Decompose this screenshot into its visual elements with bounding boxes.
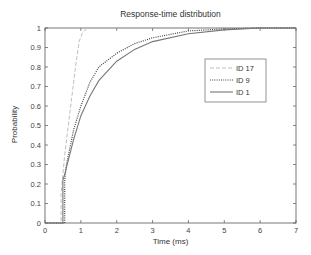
y-tick-label: 0.5 [31,121,41,130]
legend-label: ID 17 [236,64,254,73]
y-tick-label: 0.6 [31,102,41,111]
x-tick-label: 5 [222,226,226,235]
plot-area: 0123456700.10.20.30.40.50.60.70.80.91ID … [0,0,311,255]
y-tick-label: 0.2 [31,180,41,189]
x-tick-label: 6 [258,226,262,235]
chart-container: Response-time distribution Probability T… [0,0,311,255]
x-tick-label: 7 [294,226,298,235]
axes-frame [45,28,296,223]
x-tick-label: 4 [186,226,190,235]
y-tick-label: 0.3 [31,160,41,169]
x-tick-label: 0 [43,226,47,235]
y-tick-label: 0.4 [31,141,41,150]
y-tick-label: 0.7 [31,82,41,91]
legend-label: ID 1 [236,88,250,97]
y-tick-label: 0.1 [31,199,41,208]
y-tick-label: 0 [37,219,41,228]
x-tick-label: 1 [79,226,83,235]
series-line-id-9 [45,28,296,223]
series-line-id-17 [45,28,296,223]
legend-label: ID 9 [236,76,250,85]
y-tick-label: 1 [37,24,41,33]
y-tick-label: 0.9 [31,43,41,52]
x-tick-label: 3 [150,226,154,235]
series-line-id-1 [45,28,296,223]
y-tick-label: 0.8 [31,63,41,72]
x-tick-label: 2 [115,226,119,235]
